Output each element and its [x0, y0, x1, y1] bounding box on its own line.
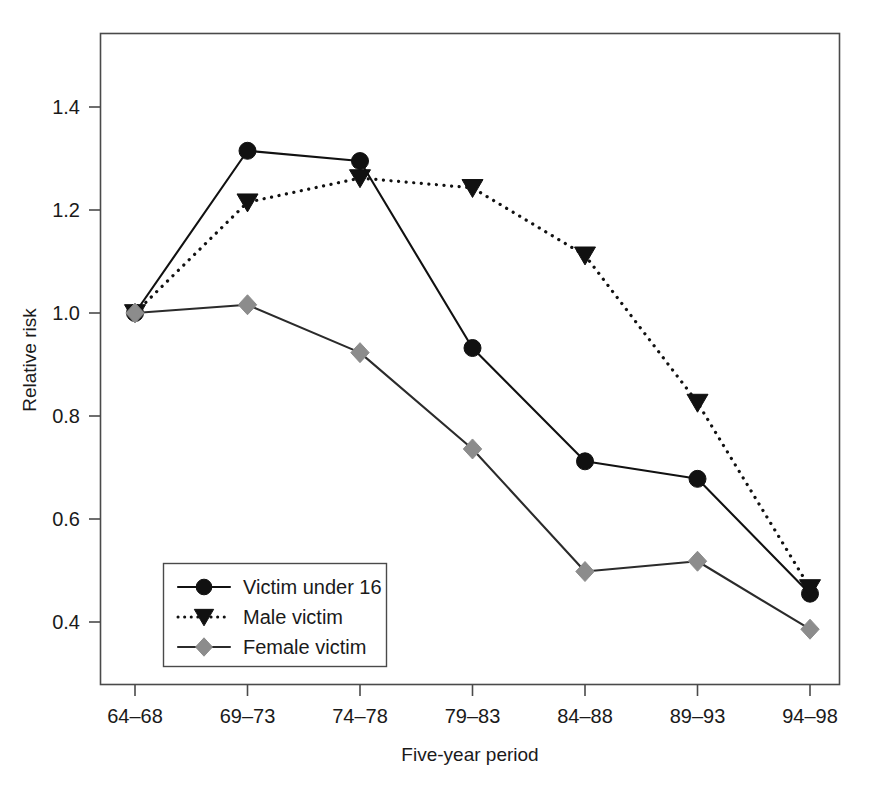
x-tick-label: 79–83	[445, 705, 501, 727]
data-point-circle-marker	[464, 340, 481, 357]
x-tick-label: 94–98	[782, 705, 838, 727]
x-tick-label: 74–78	[332, 705, 388, 727]
data-point-circle-marker	[196, 579, 212, 595]
chart-background	[0, 0, 870, 792]
y-tick-label: 0.6	[52, 508, 80, 530]
y-tick-label: 0.8	[52, 405, 80, 427]
y-axis-title: Relative risk	[19, 308, 40, 412]
chart-figure: 0.40.60.81.01.21.4 64–6869–7374–7879–838…	[0, 0, 870, 792]
x-tick-label: 69–73	[220, 705, 276, 727]
legend-item-label: Victim under 16	[243, 576, 382, 598]
x-axis-title: Five-year period	[401, 744, 538, 765]
y-tick-label: 1.2	[52, 199, 80, 221]
x-tick-label: 64–68	[107, 705, 163, 727]
x-tick-label: 84–88	[557, 705, 613, 727]
x-tick-label: 89–93	[670, 705, 726, 727]
y-tick-label: 1.4	[52, 96, 80, 118]
data-point-circle-marker	[239, 142, 256, 159]
y-tick-label: 0.4	[52, 611, 80, 633]
data-point-circle-marker	[577, 453, 594, 470]
chart-legend: Victim under 16Male victimFemale victim	[164, 564, 387, 667]
legend-item-label: Female victim	[243, 636, 366, 658]
data-point-circle-marker	[689, 470, 706, 487]
y-tick-label: 1.0	[52, 302, 80, 324]
legend-item-label: Male victim	[243, 606, 343, 628]
relative-risk-line-chart: 0.40.60.81.01.21.4 64–6869–7374–7879–838…	[0, 0, 870, 792]
data-point-circle-marker	[352, 153, 369, 170]
